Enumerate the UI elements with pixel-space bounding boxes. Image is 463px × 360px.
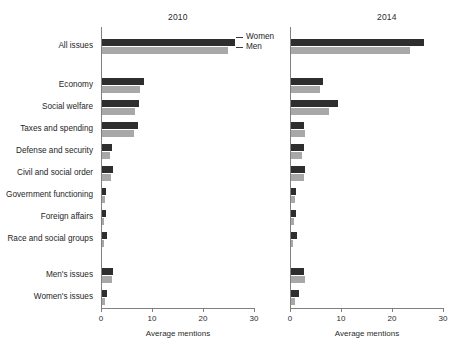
- bar-men: [291, 108, 329, 115]
- panel-2014: Average mentions 0102030: [290, 27, 450, 308]
- x-axis-line-2010: [101, 308, 255, 309]
- x-axis-tick: [254, 308, 255, 312]
- bar-men: [291, 240, 293, 247]
- x-axis-tick: [101, 308, 102, 312]
- category-axis-labels: All issuesEconomySocial welfareTaxes and…: [0, 27, 97, 308]
- bar-men: [291, 218, 294, 225]
- x-axis-tick-label: 20: [388, 314, 397, 323]
- bar-men: [102, 108, 135, 115]
- bar-women: [102, 290, 107, 297]
- bar-men: [291, 130, 305, 137]
- x-axis-title-2010: Average mentions: [146, 329, 210, 338]
- x-axis-tick: [341, 308, 342, 312]
- bar-women: [102, 232, 107, 239]
- x-axis-tick: [392, 308, 393, 312]
- category-label: Women's issues: [34, 292, 93, 302]
- bar-men: [102, 174, 111, 181]
- x-axis-tick-label: 30: [250, 314, 259, 323]
- bar-women: [102, 122, 138, 129]
- panel-title-2014: 2014: [377, 12, 397, 22]
- bar-women: [291, 290, 299, 297]
- bar-women: [291, 144, 304, 151]
- x-axis-tick-label: 10: [148, 314, 157, 323]
- bar-men: [291, 152, 302, 159]
- bar-men: [102, 276, 112, 283]
- category-label: All issues: [58, 41, 93, 51]
- bar-women: [291, 39, 424, 46]
- bar-men: [102, 218, 104, 225]
- bar-men: [291, 196, 295, 203]
- bar-women: [291, 100, 338, 107]
- panel-title-2010: 2010: [168, 12, 188, 22]
- bar-women: [291, 188, 296, 195]
- bar-men: [102, 86, 140, 93]
- bar-men: [291, 47, 410, 54]
- x-axis-tick: [290, 308, 291, 312]
- x-axis-tick-label: 30: [439, 314, 448, 323]
- bar-women: [102, 39, 235, 46]
- bar-men: [102, 240, 104, 247]
- bar-women: [291, 210, 296, 217]
- bar-men: [102, 298, 105, 305]
- legend-label-women: Women: [246, 32, 274, 41]
- bar-women: [102, 100, 139, 107]
- chart-legend: Women Men: [236, 33, 288, 55]
- category-label: Social welfare: [42, 102, 93, 112]
- category-label: Men's issues: [46, 270, 93, 280]
- bar-men: [291, 298, 295, 305]
- bar-women: [291, 268, 304, 275]
- bar-men: [102, 196, 105, 203]
- panel-2010: Average mentions 0102030: [101, 27, 261, 308]
- x-axis-tick-label: 10: [337, 314, 346, 323]
- x-axis-tick-label: 20: [199, 314, 208, 323]
- x-axis-tick: [203, 308, 204, 312]
- bar-women: [102, 268, 113, 275]
- category-label: Civil and social order: [17, 168, 93, 178]
- legend-dash-women-icon: [236, 37, 243, 38]
- x-axis-tick-label: 0: [288, 314, 292, 323]
- category-label: Taxes and spending: [20, 124, 93, 134]
- bar-men: [102, 152, 110, 159]
- x-axis-tick: [443, 308, 444, 312]
- category-label: Foreign affairs: [41, 212, 93, 222]
- x-axis-title-2014: Average mentions: [335, 329, 399, 338]
- bar-women: [291, 78, 323, 85]
- bar-men: [102, 47, 228, 54]
- legend-dash-men-icon: [236, 47, 243, 48]
- x-axis-line-2014: [290, 308, 444, 309]
- grouped-bar-chart-figure: 2010 2014 All issuesEconomySocial welfar…: [0, 0, 463, 360]
- bar-women: [102, 166, 113, 173]
- bar-women: [291, 122, 304, 129]
- bar-women: [102, 188, 106, 195]
- bar-men: [291, 276, 305, 283]
- bar-men: [102, 130, 134, 137]
- category-label: Economy: [59, 80, 93, 90]
- bar-women: [291, 166, 305, 173]
- bar-women: [102, 78, 144, 85]
- legend-label-men: Men: [246, 42, 262, 51]
- category-label: Race and social groups: [7, 234, 93, 244]
- category-label: Government functioning: [6, 190, 93, 200]
- x-axis-tick-label: 0: [99, 314, 103, 323]
- x-axis-tick: [152, 308, 153, 312]
- category-label: Defense and security: [16, 146, 93, 156]
- bar-women: [291, 232, 297, 239]
- bar-women: [102, 144, 112, 151]
- bar-women: [102, 210, 106, 217]
- bar-men: [291, 86, 320, 93]
- bar-men: [291, 174, 304, 181]
